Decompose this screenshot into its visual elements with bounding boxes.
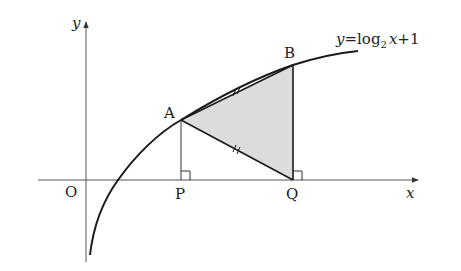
curve-equation-label: y=log2x+1 — [335, 30, 419, 50]
right-angle-p — [181, 171, 190, 180]
point-o-label: O — [65, 183, 77, 201]
triangle-abq — [181, 65, 293, 180]
point-q-label: Q — [286, 185, 298, 203]
log-curve — [90, 51, 358, 255]
y-axis-label: y — [71, 14, 81, 32]
x-axis-label: x — [406, 184, 415, 202]
point-p-label: P — [175, 185, 185, 203]
right-angle-q — [293, 171, 302, 180]
point-a-label: A — [163, 104, 175, 122]
point-b-label: B — [284, 44, 295, 62]
diagram: y x O A B P Q y=log2x+1 — [0, 0, 461, 271]
